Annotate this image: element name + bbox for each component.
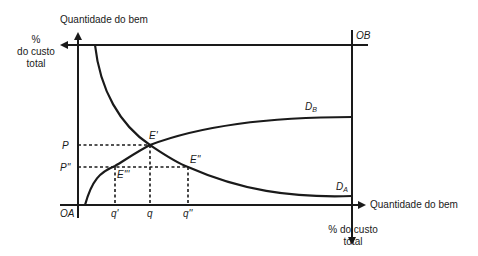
cost-label-line-1: % [14,34,58,46]
da-sub: A [343,186,348,193]
bottom-cost-line-1: % do custo [318,224,388,236]
curve-db [85,117,352,205]
price-p2-label: P'' [60,162,71,174]
price-p-label: P [62,140,69,152]
bottom-axis-label: Quantidade do bem [370,199,458,211]
qty-q1-label: q' [111,208,118,220]
origin-ob-label: OB [356,30,370,42]
db-sub: B [312,106,317,113]
curve-da-label: DA [336,181,348,196]
point-e1-label: E' [149,130,158,142]
bottom-cost-line-2: total [318,236,388,248]
point-e3-label: E''' [117,169,129,181]
cost-label-line-3: total [14,58,58,70]
qty-q-label: q [147,208,153,220]
curve-db-label: DB [305,101,317,116]
cost-label-line-2: do custo [14,46,58,58]
qty-q2-label: q'' [183,208,192,220]
top-left-cost-label: % do custo total [14,34,58,70]
curve-da [95,45,352,196]
bottom-cost-label: % do custo total [318,224,388,248]
origin-oa-label: OA [60,208,74,220]
left-axis-label: Quantidade do bem [60,14,148,26]
point-e2-label: E'' [190,154,201,166]
